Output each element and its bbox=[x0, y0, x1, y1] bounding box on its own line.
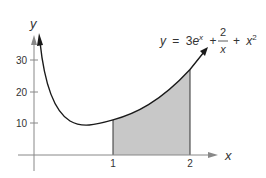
y-axis-arrow-icon bbox=[31, 35, 37, 45]
shaded-area bbox=[113, 70, 190, 156]
svg-text:y = 3ex +: y = 3ex + bbox=[159, 29, 216, 48]
svg-text:+ x2: + x2 bbox=[233, 33, 257, 48]
y-tick-label-30: 30 bbox=[16, 55, 28, 66]
x-axis-arrow-icon bbox=[208, 152, 218, 158]
x-tick-label-2: 2 bbox=[187, 158, 193, 169]
chart: 30 20 10 1 2 x y y = 3ex + 2 x + x2 bbox=[0, 0, 266, 178]
equation-label: y = 3ex + 2 x + x2 bbox=[159, 26, 257, 55]
svg-text:2: 2 bbox=[220, 26, 226, 38]
x-axis-label: x bbox=[224, 148, 232, 163]
y-tick-label-10: 10 bbox=[16, 118, 28, 129]
x-tick-label-1: 1 bbox=[110, 158, 116, 169]
curve-arrow-top-icon bbox=[37, 33, 43, 46]
y-tick-label-20: 20 bbox=[16, 87, 28, 98]
y-axis-label: y bbox=[29, 16, 38, 31]
svg-text:x: x bbox=[219, 43, 226, 55]
